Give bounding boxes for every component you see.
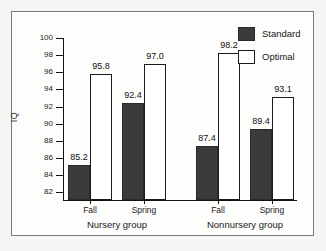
- legend-item-optimal: Optimal: [238, 49, 314, 68]
- y-tick-label: 100: [22, 34, 53, 42]
- bar-optimal-nursery-group-spring: [144, 64, 166, 200]
- x-tick-label: Fall: [188, 206, 248, 215]
- x-tick-label: Spring: [242, 206, 302, 215]
- y-tick-mark: [56, 124, 63, 125]
- y-tick-mark: [56, 175, 63, 176]
- legend-swatch-optimal-icon: [238, 50, 255, 64]
- bar-standard-nursery-group-fall: [68, 165, 90, 200]
- y-tick-label: 92: [22, 103, 53, 111]
- x-tick-mark: [218, 200, 219, 204]
- x-axis-line: [63, 200, 297, 201]
- y-tick-label: 82: [22, 188, 53, 196]
- y-tick-mark: [56, 107, 63, 108]
- y-tick-label: 94: [22, 85, 53, 93]
- bar-standard-nonnursery-group-spring: [250, 129, 272, 200]
- legend-swatch-standard-icon: [238, 27, 255, 41]
- y-tick-label: 90: [22, 120, 53, 128]
- y-tick-label: 88: [22, 137, 53, 145]
- y-tick-mark: [56, 141, 63, 142]
- x-tick-label: Fall: [60, 206, 120, 215]
- bar-value-label: 95.8: [84, 62, 118, 71]
- x-group-label: Nursery group: [57, 220, 177, 230]
- chart-figure: IQ 100989694929088868482 85.295.892.497.…: [0, 0, 326, 251]
- y-tick-label: 86: [22, 154, 53, 162]
- y-axis-line: [63, 38, 64, 200]
- bar-value-label: 93.1: [266, 85, 300, 94]
- x-group-label: Nonnursery group: [185, 220, 305, 230]
- bar-standard-nursery-group-spring: [122, 103, 144, 200]
- bar-value-label: 97.0: [138, 52, 172, 61]
- bar-optimal-nonnursery-group-spring: [272, 97, 294, 200]
- y-tick-mark: [56, 89, 63, 90]
- y-axis-label: IQ: [9, 97, 19, 137]
- y-tick-mark: [56, 38, 63, 39]
- bar-optimal-nursery-group-fall: [90, 74, 112, 200]
- y-tick-label: 96: [22, 68, 53, 76]
- chart-legend: Standard Optimal: [238, 26, 314, 72]
- y-tick-label: 98: [22, 51, 53, 59]
- y-tick-label: 84: [22, 171, 53, 179]
- legend-label-optimal: Optimal: [262, 51, 295, 62]
- x-tick-label: Spring: [114, 206, 174, 215]
- y-tick-mark: [56, 72, 63, 73]
- legend-item-standard: Standard: [238, 26, 314, 45]
- y-tick-mark: [56, 192, 63, 193]
- bar-standard-nonnursery-group-fall: [196, 146, 218, 200]
- y-tick-mark: [56, 55, 63, 56]
- x-tick-mark: [90, 200, 91, 204]
- x-tick-mark: [272, 200, 273, 204]
- bar-optimal-nonnursery-group-fall: [218, 53, 240, 200]
- x-tick-mark: [144, 200, 145, 204]
- legend-label-standard: Standard: [262, 28, 301, 39]
